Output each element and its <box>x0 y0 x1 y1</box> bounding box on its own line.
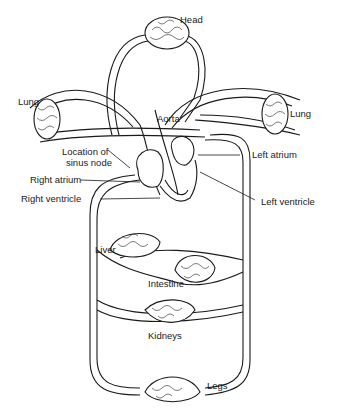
label-aorta: Aorta <box>157 113 180 124</box>
label-left-atrium: Left atrium <box>252 149 297 160</box>
label-sinus-node-line1: Location of <box>62 146 108 157</box>
label-sinus-node-line2: sinus node <box>66 157 112 168</box>
kidneys-capillary-bed <box>145 300 195 323</box>
label-intestine: Intestine <box>148 278 184 289</box>
label-right-ventricle: Right ventricle <box>21 193 81 204</box>
label-lung-right: Lung <box>290 108 311 119</box>
label-right-atrium: Right atrium <box>30 174 81 185</box>
systemic-circuit <box>90 134 250 401</box>
label-liver: Liver <box>95 244 116 255</box>
label-lung-left: Lung <box>18 96 39 107</box>
label-left-ventricle: Left ventricle <box>261 196 315 207</box>
label-kidneys: Kidneys <box>148 330 182 341</box>
left-atrium-shape <box>171 136 194 165</box>
right-atrium-shape <box>137 150 164 187</box>
label-head: Head <box>180 14 203 25</box>
liver-capillary-bed <box>110 234 160 257</box>
label-legs: Legs <box>207 380 228 391</box>
